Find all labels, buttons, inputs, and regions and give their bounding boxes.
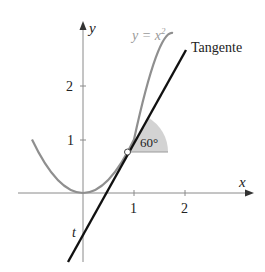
x-tick-label-2: 2: [181, 201, 188, 216]
curve-label: y = x2: [130, 26, 166, 43]
x-axis-label: x: [238, 174, 246, 190]
angle-label: 60°: [140, 135, 158, 150]
y-tick-label-1: 1: [67, 133, 74, 148]
tangent-point: [125, 149, 131, 155]
y-axis-arrow-icon: [80, 21, 87, 30]
tangent-label: Tangente: [191, 40, 242, 55]
y-tick-label-2: 2: [66, 79, 73, 94]
tangent-parabola-diagram: y x y = x2 Tangente t 60° 1 2 1 2: [0, 0, 265, 272]
x-axis-arrow-icon: [245, 190, 254, 197]
y-axis-label: y: [87, 20, 96, 36]
x-tick-label-1: 1: [130, 201, 137, 216]
intercept-label: t: [72, 225, 77, 240]
tangent-line: [68, 50, 186, 262]
